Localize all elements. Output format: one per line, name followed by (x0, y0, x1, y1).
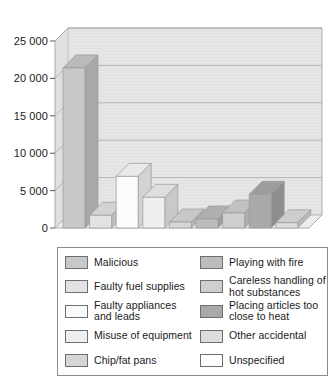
y-tick-label: 15 000 (2, 110, 48, 122)
legend-label: Malicious (94, 257, 138, 269)
legend-swatch (65, 330, 88, 343)
legend-item[interactable]: Playing with fire (193, 250, 329, 275)
legend-label: Misuse of equipment (94, 330, 192, 342)
legend-swatch (65, 305, 88, 318)
legend-label: Other accidental (229, 330, 306, 342)
legend-item[interactable]: Unspecified (193, 348, 329, 373)
y-tick-label: 25 000 (2, 35, 48, 47)
legend-label: Playing with fire (229, 257, 303, 269)
legend-item[interactable]: Chip/fat pans (58, 348, 193, 373)
legend: MaliciousPlaying with fireFaulty fuel su… (57, 247, 328, 376)
legend-item[interactable]: Faulty fuel supplies (58, 275, 193, 300)
legend-swatch (200, 256, 223, 269)
legend-swatch (200, 354, 223, 367)
legend-label: Careless handling of hot substances (229, 275, 329, 298)
legend-label: Chip/fat pans (94, 355, 157, 367)
legend-label: Placing articles too close to heat (229, 300, 329, 323)
y-tick-label: 20 000 (2, 72, 48, 84)
legend-label: Unspecified (229, 355, 284, 367)
legend-swatch (200, 305, 223, 318)
y-axis-labels: 25 000 20 000 15 000 10 000 5 000 0 (0, 0, 48, 245)
bar-malicious (63, 55, 98, 228)
legend-item[interactable]: Placing articles too close to heat (193, 299, 329, 324)
legend-item[interactable]: Other accidental (193, 324, 329, 349)
legend-swatch (200, 330, 223, 343)
plot-region: 25 000 20 000 15 000 10 000 5 000 0 (0, 0, 335, 245)
legend-swatch (65, 354, 88, 367)
legend-item[interactable]: Faulty appliances and leads (58, 299, 193, 324)
legend-item[interactable]: Careless handling of hot substances (193, 275, 329, 300)
plot-svg (0, 0, 335, 245)
y-axis-ticks (50, 41, 55, 228)
y-tick-label: 0 (2, 222, 48, 234)
legend-swatch (200, 280, 223, 293)
legend-item[interactable]: Malicious (58, 250, 193, 275)
bar-chart-figure: 25 000 20 000 15 000 10 000 5 000 0 Mali… (0, 0, 335, 386)
legend-label: Faulty appliances and leads (94, 300, 193, 323)
legend-swatch (65, 280, 88, 293)
legend-label: Faulty fuel supplies (94, 281, 185, 293)
legend-item[interactable]: Misuse of equipment (58, 324, 193, 349)
y-tick-label: 5 000 (2, 185, 48, 197)
legend-swatch (65, 256, 88, 269)
y-tick-label: 10 000 (2, 147, 48, 159)
legend-grid: MaliciousPlaying with fireFaulty fuel su… (58, 248, 327, 375)
